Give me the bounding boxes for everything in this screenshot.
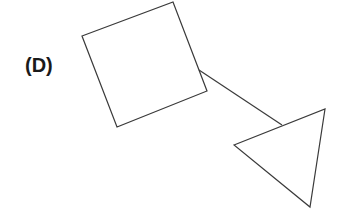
connector-line (199, 70, 282, 125)
square-shape (82, 2, 207, 127)
diagram-canvas: (D) (0, 0, 347, 220)
figure (0, 0, 347, 220)
